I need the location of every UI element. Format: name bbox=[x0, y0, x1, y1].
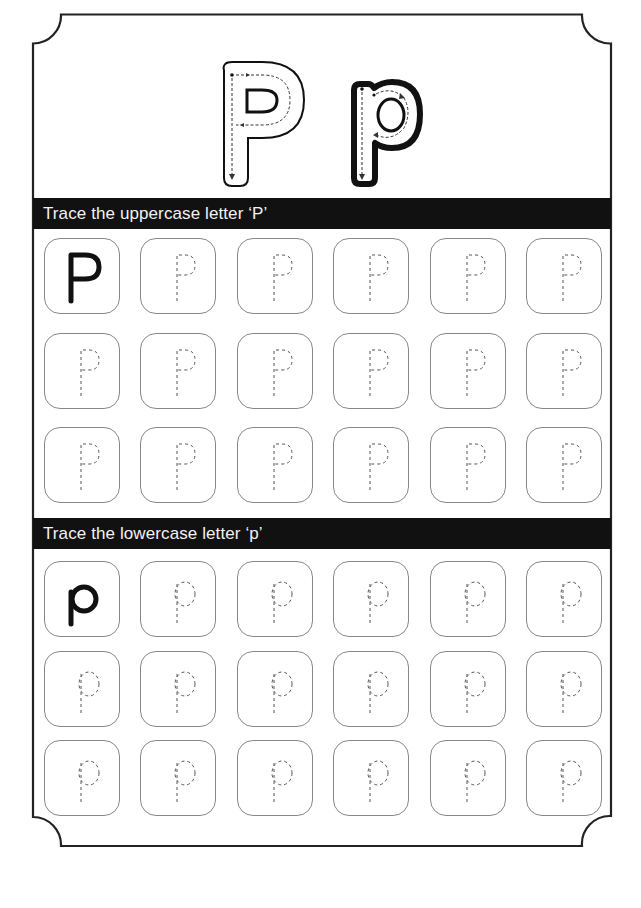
lowercase-trace-cell bbox=[237, 651, 313, 727]
dashed-letter-P-icon bbox=[45, 428, 121, 504]
hero-uppercase-letter bbox=[226, 64, 302, 184]
uppercase-trace-cell bbox=[430, 427, 506, 503]
lowercase-trace-cell bbox=[333, 740, 409, 816]
dashed-letter-p-icon bbox=[334, 741, 410, 817]
section-heading-lowercase: Trace the lowercase letter ‘p’ bbox=[33, 518, 611, 549]
uppercase-trace-cell bbox=[140, 238, 216, 314]
dashed-letter-P-icon bbox=[238, 428, 314, 504]
dashed-letter-P-icon bbox=[45, 334, 121, 410]
dashed-letter-P-icon bbox=[238, 334, 314, 410]
dashed-letter-p-icon bbox=[141, 741, 217, 817]
uppercase-trace-cell bbox=[526, 333, 602, 409]
dashed-letter-P-icon bbox=[141, 239, 217, 315]
hero-lowercase-letter bbox=[354, 82, 420, 184]
lowercase-trace-cell bbox=[140, 740, 216, 816]
dashed-letter-p-icon bbox=[45, 741, 121, 817]
uppercase-trace-cell bbox=[526, 427, 602, 503]
dashed-letter-P-icon bbox=[527, 239, 603, 315]
dashed-letter-P-icon bbox=[527, 428, 603, 504]
uppercase-trace-cell bbox=[44, 427, 120, 503]
dashed-letter-p-icon bbox=[141, 562, 217, 638]
section-heading-lowercase-text: Trace the lowercase letter ‘p’ bbox=[43, 524, 263, 543]
lowercase-trace-cell bbox=[44, 651, 120, 727]
dashed-letter-p-icon bbox=[527, 652, 603, 728]
lowercase-trace-cell bbox=[237, 561, 313, 637]
lowercase-trace-cell bbox=[526, 651, 602, 727]
lowercase-model-letter-cell bbox=[44, 561, 120, 637]
dashed-letter-P-icon bbox=[334, 239, 410, 315]
uppercase-trace-cell bbox=[140, 333, 216, 409]
lowercase-trace-cell bbox=[333, 651, 409, 727]
dashed-letter-P-icon bbox=[141, 428, 217, 504]
dashed-letter-P-icon bbox=[238, 239, 314, 315]
dashed-letter-p-icon bbox=[334, 652, 410, 728]
dashed-letter-p-icon bbox=[431, 741, 507, 817]
solid-letter-p-icon bbox=[45, 562, 121, 638]
dashed-letter-p-icon bbox=[527, 562, 603, 638]
dashed-letter-P-icon bbox=[431, 334, 507, 410]
uppercase-trace-cell bbox=[333, 238, 409, 314]
dashed-letter-p-icon bbox=[334, 562, 410, 638]
dashed-letter-p-icon bbox=[238, 562, 314, 638]
uppercase-trace-cell bbox=[333, 427, 409, 503]
lowercase-trace-cell bbox=[237, 740, 313, 816]
dashed-letter-P-icon bbox=[334, 428, 410, 504]
lowercase-trace-cell bbox=[44, 740, 120, 816]
solid-letter-P-icon bbox=[45, 239, 121, 315]
section-heading-uppercase-text: Trace the uppercase letter ‘P’ bbox=[43, 204, 267, 223]
uppercase-trace-cell bbox=[237, 333, 313, 409]
dashed-letter-p-icon bbox=[527, 741, 603, 817]
uppercase-trace-cell bbox=[237, 238, 313, 314]
dashed-letter-P-icon bbox=[527, 334, 603, 410]
section-heading-uppercase: Trace the uppercase letter ‘P’ bbox=[33, 198, 611, 229]
lowercase-trace-cell bbox=[430, 561, 506, 637]
dashed-letter-P-icon bbox=[141, 334, 217, 410]
lowercase-trace-cell bbox=[430, 740, 506, 816]
uppercase-trace-cell bbox=[430, 333, 506, 409]
uppercase-trace-cell bbox=[333, 333, 409, 409]
uppercase-trace-cell bbox=[237, 427, 313, 503]
uppercase-trace-cell bbox=[430, 238, 506, 314]
uppercase-trace-cell bbox=[140, 427, 216, 503]
dashed-letter-p-icon bbox=[238, 652, 314, 728]
uppercase-trace-cell bbox=[44, 333, 120, 409]
lowercase-trace-cell bbox=[526, 561, 602, 637]
dashed-letter-p-icon bbox=[141, 652, 217, 728]
dashed-letter-p-icon bbox=[45, 652, 121, 728]
dashed-letter-p-icon bbox=[238, 741, 314, 817]
dashed-letter-P-icon bbox=[431, 239, 507, 315]
lowercase-trace-cell bbox=[333, 561, 409, 637]
lowercase-trace-cell bbox=[140, 651, 216, 727]
dashed-letter-p-icon bbox=[431, 652, 507, 728]
lowercase-trace-cell bbox=[430, 651, 506, 727]
uppercase-trace-cell bbox=[526, 238, 602, 314]
lowercase-trace-cell bbox=[526, 740, 602, 816]
dashed-letter-P-icon bbox=[431, 428, 507, 504]
dashed-letter-P-icon bbox=[334, 334, 410, 410]
hero-letters bbox=[0, 0, 641, 200]
lowercase-trace-cell bbox=[140, 561, 216, 637]
uppercase-model-letter-cell bbox=[44, 238, 120, 314]
dashed-letter-p-icon bbox=[431, 562, 507, 638]
